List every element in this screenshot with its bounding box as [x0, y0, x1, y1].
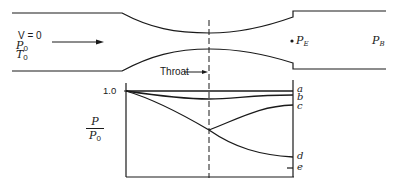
curve-label-c: c [297, 101, 303, 111]
exit-pressure-label: PE [296, 35, 309, 48]
nozzle-diagram [0, 0, 394, 188]
inlet-temperature-label: T0 [16, 49, 28, 62]
throat-arrow-head [202, 70, 208, 74]
curve-label-e: e [297, 162, 303, 172]
y-axis-label: P P0 [84, 116, 106, 144]
y-tick-label: 1.0 [103, 86, 116, 96]
y-label-denominator: P0 [84, 130, 106, 144]
curve-d [209, 130, 293, 157]
curve-label-d: d [297, 151, 303, 161]
throat-label: Throat [160, 67, 189, 77]
exit-pressure-dot [290, 39, 293, 42]
back-pressure-label: PB [372, 35, 385, 48]
curve-c [209, 105, 293, 130]
nozzle-top-wall [12, 11, 386, 33]
flow-arrow-head [96, 40, 104, 45]
nozzle-bottom-wall [12, 49, 386, 71]
y-label-numerator: P [84, 116, 106, 127]
